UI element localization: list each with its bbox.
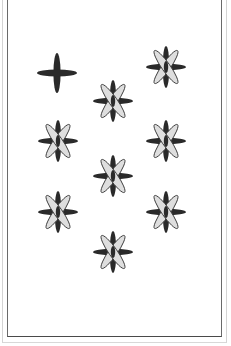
- star-pip-icon: [34, 117, 82, 165]
- star-pip-icon: [89, 152, 137, 200]
- star-pip-icon: [34, 188, 82, 236]
- playing-card[interactable]: [0, 0, 231, 346]
- star-pip-icon: [142, 188, 190, 236]
- star-pip-icon: [142, 43, 190, 91]
- star-pip-icon: [142, 117, 190, 165]
- star-pip-icon: [89, 77, 137, 125]
- star-pip-icon: [89, 228, 137, 276]
- plain-cross-icon: [33, 49, 81, 97]
